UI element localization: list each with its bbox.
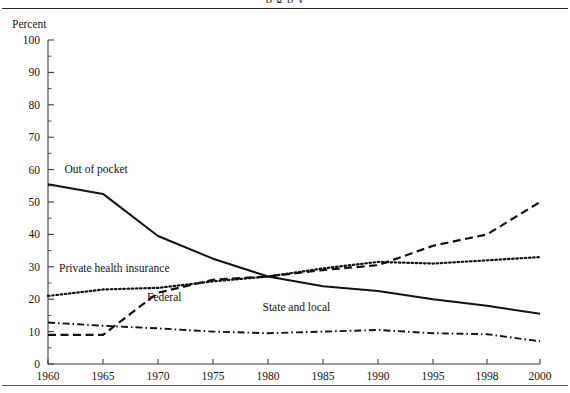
x-axis-tick-label: 1960	[37, 370, 60, 382]
y-axis-tick-label: 30	[29, 261, 41, 273]
y-axis-tick-label: 20	[29, 293, 41, 305]
y-axis-tick-label: 50	[29, 196, 41, 208]
y-axis-tick-label: 60	[29, 164, 41, 176]
x-axis-tick-label: 1990	[367, 370, 390, 382]
x-axis-tick-label: 1980	[257, 370, 280, 382]
y-axis-tick-label: 40	[29, 228, 41, 240]
x-axis-tick-label: 1970	[147, 370, 170, 382]
series-label-private-health-insurance: Private health insurance	[59, 262, 170, 274]
y-axis-tick-label: 100	[23, 34, 41, 46]
y-axis-tick-label: 10	[29, 326, 41, 338]
series-line-state-and-local	[48, 323, 540, 342]
series-label-state-and-local: State and local	[263, 301, 331, 313]
line-chart: 0102030405060708090100196019651970197519…	[0, 0, 570, 393]
series-line-out-of-pocket	[48, 184, 540, 314]
y-axis-tick-label: 90	[29, 66, 41, 78]
x-axis-tick-label: 1975	[202, 370, 225, 382]
x-axis-tick-label: 1985	[312, 370, 335, 382]
y-axis-tick-label: 70	[29, 131, 41, 143]
horizontal-rule-bottom	[2, 385, 568, 386]
x-axis-tick-label: 1995	[422, 370, 445, 382]
series-label-out-of-pocket: Out of pocket	[65, 163, 129, 176]
series-label-federal: Federal	[147, 291, 181, 303]
y-axis-tick-label: 80	[29, 99, 41, 111]
y-axis-tick-label: 0	[34, 358, 40, 370]
chart-page: p g p y Percent 010203040506070809010019…	[0, 0, 570, 393]
x-axis-tick-label: 1998	[476, 370, 499, 382]
axis-lines	[48, 40, 540, 364]
x-axis-tick-label: 1965	[92, 370, 115, 382]
x-axis-tick-label: 2000	[529, 370, 552, 382]
